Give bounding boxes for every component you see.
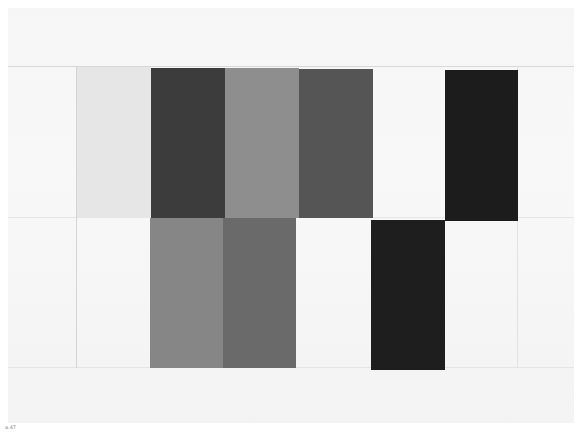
black-panel-top-right (445, 70, 518, 221)
black-panel-bottom (371, 220, 445, 370)
caption: a.47 (5, 424, 16, 430)
slate-panel-bottom (223, 218, 296, 368)
dark-gray-panel-top (151, 68, 225, 218)
gray-panel-bottom-left (150, 218, 224, 368)
light-panel-top-left (77, 67, 151, 217)
charcoal-panel-top (299, 69, 373, 218)
mid-gray-panel-top (225, 68, 299, 218)
